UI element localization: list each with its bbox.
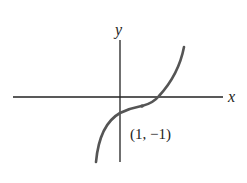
x-axis-label: x xyxy=(227,88,235,105)
y-axis-label: y xyxy=(113,21,123,39)
function-curve xyxy=(96,47,184,162)
point-label: (1, −1) xyxy=(130,126,171,143)
inflection-point-marker xyxy=(140,104,144,108)
graph-canvas: y x (1, −1) xyxy=(0,0,247,183)
